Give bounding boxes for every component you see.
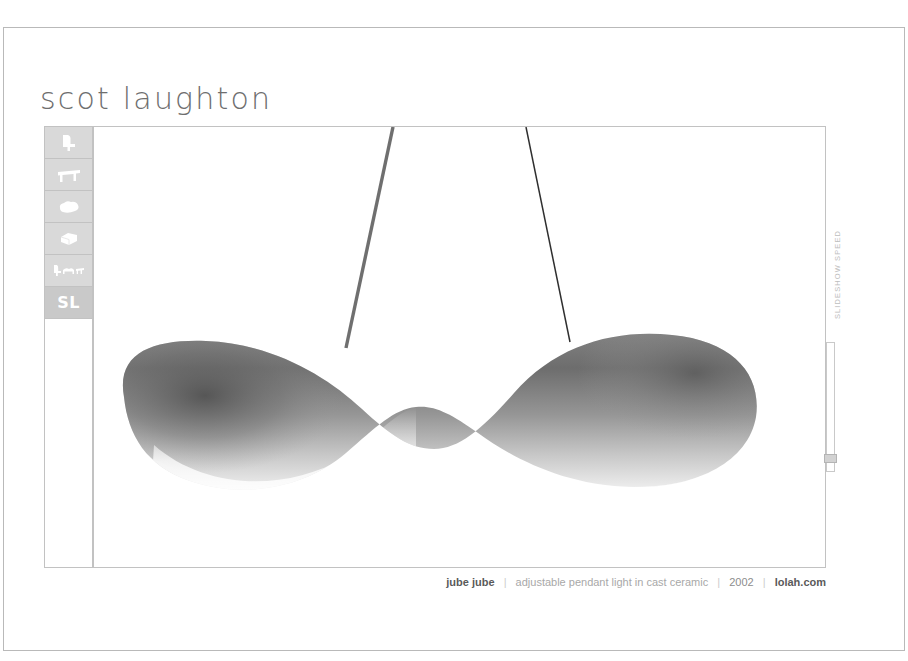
slideshow-stage[interactable] — [93, 126, 826, 568]
slideshow-speed-control[interactable]: SLIDESHOW SPEED — [820, 230, 844, 480]
sidebar-empty-panel — [44, 318, 93, 568]
sidebar-item-collection[interactable] — [44, 254, 93, 286]
sl-monogram-icon: SL — [57, 293, 80, 312]
box-icon — [58, 231, 80, 247]
caption-site-link[interactable]: lolah.com — [775, 576, 826, 588]
lamp-body — [109, 311, 779, 527]
sidebar-item-chair[interactable] — [44, 126, 93, 158]
cord-right — [526, 127, 570, 342]
caption-separator-2: | — [711, 576, 726, 588]
slideshow-speed-label: SLIDESHOW SPEED — [833, 220, 842, 330]
page-title: scot laughton — [40, 80, 272, 118]
caption-product: jube jube — [446, 576, 494, 588]
furniture-group-icon — [52, 263, 86, 279]
cloud-blob-icon — [56, 199, 82, 215]
sidebar-item-table[interactable] — [44, 158, 93, 190]
slideshow-speed-slider-track[interactable] — [826, 342, 835, 472]
slideshow-speed-slider-handle[interactable] — [824, 454, 837, 463]
product-photo — [94, 127, 825, 567]
chair-icon — [58, 133, 80, 153]
caption-separator-3: | — [757, 576, 772, 588]
cord-left — [346, 127, 393, 348]
caption-year: 2002 — [729, 576, 753, 588]
caption-separator-1: | — [498, 576, 513, 588]
sidebar: SL — [44, 126, 93, 568]
sidebar-item-sl[interactable]: SL — [44, 286, 93, 318]
sidebar-item-box[interactable] — [44, 222, 93, 254]
caption-bar: jube jube | adjustable pendant light in … — [93, 575, 826, 590]
table-icon — [56, 166, 82, 184]
sidebar-item-blob[interactable] — [44, 190, 93, 222]
caption-description: adjustable pendant light in cast ceramic — [516, 576, 709, 588]
application-window: scot laughton — [0, 0, 908, 661]
